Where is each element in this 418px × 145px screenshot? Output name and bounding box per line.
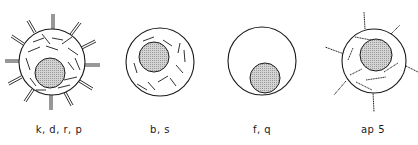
nucleus xyxy=(360,39,392,71)
nucleus xyxy=(35,58,65,88)
cell-2-label: b, s xyxy=(110,124,210,135)
cell-1 xyxy=(5,14,100,110)
cell-2 xyxy=(126,28,194,96)
nucleus xyxy=(139,42,169,72)
cell-3 xyxy=(228,27,296,95)
cell-4-label: ap 5 xyxy=(323,124,418,135)
cell-1-label: k, d, r, p xyxy=(9,124,109,135)
cell-3-label: f, q xyxy=(212,124,312,135)
nucleus xyxy=(250,63,280,93)
cell-4 xyxy=(325,12,418,112)
